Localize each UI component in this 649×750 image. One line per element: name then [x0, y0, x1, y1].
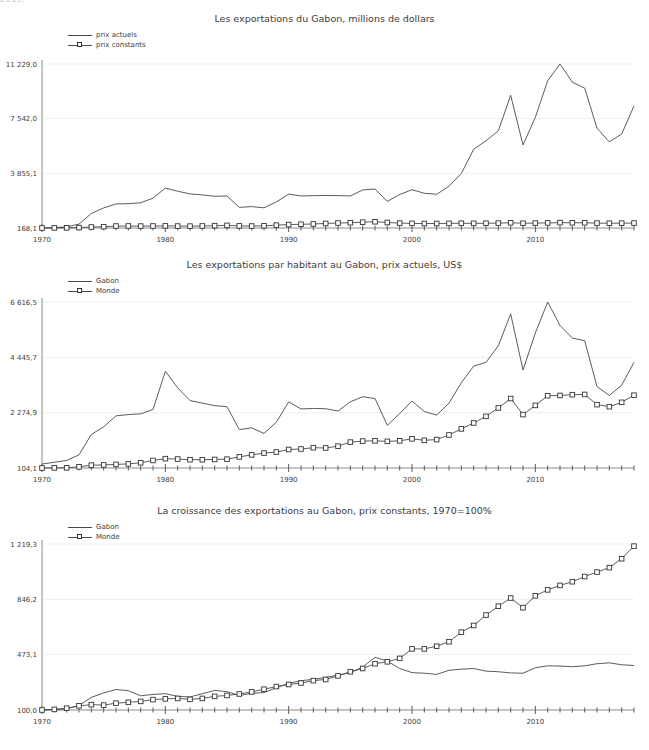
series-marker: [262, 687, 267, 692]
series-marker: [323, 446, 328, 451]
series-marker: [434, 221, 439, 226]
series-marker: [126, 462, 131, 467]
series-marker: [619, 221, 624, 226]
chart-exportations-par-habitant: Les exportations par habitant au Gabon, …: [0, 258, 649, 506]
series-marker: [188, 224, 193, 229]
series-marker: [582, 574, 587, 579]
x-axis-tick-label: 1990: [280, 718, 298, 726]
series-marker: [175, 224, 180, 229]
y-axis-tick-label: 1 219,3: [10, 541, 37, 549]
series-marker: [336, 674, 341, 679]
series-marker: [101, 224, 106, 229]
x-axis-tick-label: 1990: [280, 476, 298, 484]
series-marker: [348, 669, 353, 674]
series-marker: [360, 439, 365, 444]
series-marker: [212, 694, 217, 699]
series-marker: [225, 223, 230, 228]
x-axis-tick-label: 2010: [526, 236, 544, 244]
series-marker: [533, 221, 538, 226]
series-marker: [521, 605, 526, 610]
series-marker: [64, 465, 69, 470]
series-marker: [508, 596, 513, 601]
series-marker: [632, 544, 637, 549]
series-marker: [484, 414, 489, 419]
series-marker: [262, 224, 267, 229]
series-marker: [533, 403, 538, 408]
series-marker: [545, 221, 550, 226]
series-marker: [570, 392, 575, 397]
series-marker: [545, 588, 550, 593]
series-marker: [595, 402, 600, 407]
y-axis-tick-label: 11 229,0: [6, 61, 37, 69]
chart-exportations-millions: Les exportations du Gabon, millions de d…: [0, 12, 649, 260]
series-marker: [471, 221, 476, 226]
series-marker: [237, 692, 242, 697]
series-marker: [360, 220, 365, 225]
chart1-svg: 168,13 855,17 542,011 229,01970198019902…: [0, 12, 649, 260]
series-marker: [410, 647, 415, 652]
y-axis-tick-label: 2 274,9: [10, 409, 37, 417]
series-marker: [397, 656, 402, 661]
series-marker: [521, 412, 526, 417]
series-marker: [225, 457, 230, 462]
series-marker: [595, 221, 600, 226]
series-marker: [558, 393, 563, 398]
series-marker: [286, 222, 291, 227]
chart3-plot: 100,0473,1846,21 219,3197019801990200020…: [0, 504, 649, 750]
clipped-header-text: 2019.: [0, 0, 25, 4]
x-axis-tick-label: 2010: [526, 718, 544, 726]
series-marker: [373, 219, 378, 224]
series-marker: [558, 220, 563, 225]
series-marker: [114, 462, 119, 467]
series-line-monde: [42, 394, 634, 468]
series-marker: [138, 224, 143, 229]
series-marker: [459, 630, 464, 635]
series-marker: [447, 639, 452, 644]
series-marker: [212, 457, 217, 462]
series-marker: [151, 697, 156, 702]
series-marker: [249, 224, 254, 229]
series-marker: [89, 463, 94, 468]
series-marker: [163, 697, 168, 702]
series-marker: [163, 456, 168, 461]
chart2-plot: 104,12 274,94 445,76 616,519701980199020…: [0, 258, 649, 506]
series-marker: [77, 465, 82, 470]
series-marker: [311, 678, 316, 683]
series-marker: [163, 224, 168, 229]
series-marker: [397, 439, 402, 444]
series-marker: [595, 570, 600, 575]
series-marker: [175, 457, 180, 462]
series-marker: [114, 224, 119, 229]
series-marker: [397, 221, 402, 226]
series-marker: [274, 223, 279, 228]
series-marker: [299, 447, 304, 452]
chart3-svg: 100,0473,1846,21 219,3197019801990200020…: [0, 504, 649, 750]
series-marker: [101, 463, 106, 468]
series-marker: [188, 457, 193, 462]
series-marker: [77, 225, 82, 230]
series-marker: [40, 708, 45, 713]
series-marker: [619, 400, 624, 405]
y-axis-tick-label: 473,1: [17, 651, 37, 659]
y-axis-tick-label: 168,1: [17, 225, 37, 233]
series-line-monde: [42, 546, 634, 710]
series-marker: [126, 224, 131, 229]
series-marker: [508, 220, 513, 225]
series-marker: [286, 682, 291, 687]
y-axis-tick-label: 846,2: [17, 596, 37, 604]
series-marker: [545, 393, 550, 398]
x-axis-tick-label: 2010: [526, 476, 544, 484]
series-marker: [619, 556, 624, 561]
series-marker: [496, 406, 501, 411]
series-marker: [274, 684, 279, 689]
series-marker: [360, 666, 365, 671]
series-marker: [323, 677, 328, 682]
series-marker: [336, 221, 341, 226]
series-marker: [632, 393, 637, 398]
chart1-plot: 168,13 855,17 542,011 229,01970198019902…: [0, 12, 649, 260]
series-marker: [138, 699, 143, 704]
series-marker: [484, 613, 489, 618]
series-marker: [249, 690, 254, 695]
x-axis-tick-label: 2000: [403, 476, 421, 484]
series-marker: [496, 221, 501, 226]
